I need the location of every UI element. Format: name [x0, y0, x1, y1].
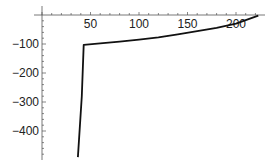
x-tick-label: 150 [177, 17, 197, 31]
ticks [42, 12, 255, 154]
chart: 50100150200−100−200−300−400 [0, 0, 270, 162]
y-tick-label: −300 [12, 95, 39, 109]
y-tick-label: −200 [12, 66, 39, 80]
x-tick-label: 50 [84, 17, 98, 31]
data-line [78, 16, 258, 158]
tick-labels: 50100150200−100−200−300−400 [12, 17, 246, 138]
x-tick-label: 100 [129, 17, 149, 31]
y-tick-label: −100 [12, 37, 39, 51]
y-tick-label: −400 [12, 124, 39, 138]
